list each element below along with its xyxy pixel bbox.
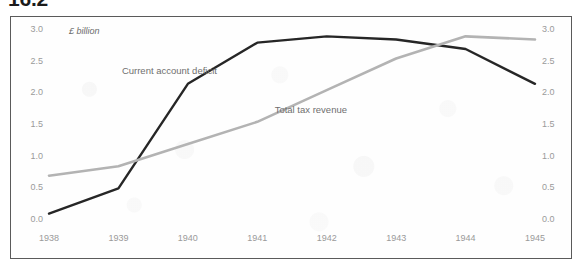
x-axis-tick: 1942 [317,234,337,243]
x-axis-tick: 1941 [247,234,267,243]
series-label: Current account deficit [122,66,217,76]
x-axis-tick: 1938 [39,234,59,243]
figure-page: 16.2 £ billion 0.00.00.50.51.01.01.51.52… [0,0,586,275]
y-axis-tick-left: 2.5 [30,57,43,66]
y-axis-tick-right: 1.5 [542,120,555,129]
series-label: Total tax revenue [275,105,347,115]
x-axis-tick: 1940 [178,234,198,243]
y-axis-tick-right: 2.5 [542,57,555,66]
y-axis-tick-right: 1.0 [542,152,555,161]
y-axis-tick-right: 0.5 [542,183,555,192]
y-axis-tick-right: 0.0 [542,215,555,224]
y-axis-tick-left: 3.0 [30,25,43,34]
y-axis-tick-right: 2.0 [542,88,555,97]
y-axis-tick-left: 1.0 [30,152,43,161]
series-line [49,36,535,213]
y-axis-tick-left: 2.0 [30,88,43,97]
chart-frame: £ billion 0.00.00.50.51.01.01.51.52.02.0… [10,16,572,259]
y-axis-tick-left: 0.5 [30,183,43,192]
x-axis-tick: 1945 [525,234,545,243]
y-axis-tick-left: 0.0 [30,215,43,224]
y-axis-tick-left: 1.5 [30,120,43,129]
x-axis-tick: 1944 [456,234,476,243]
x-axis-tick: 1943 [386,234,406,243]
x-axis-tick: 1939 [108,234,128,243]
plot-area: £ billion 0.00.00.50.51.01.01.51.52.02.0… [49,30,535,220]
y-axis-tick-right: 3.0 [542,25,555,34]
chart-series-lines [49,30,535,220]
figure-number: 16.2 [8,0,48,9]
